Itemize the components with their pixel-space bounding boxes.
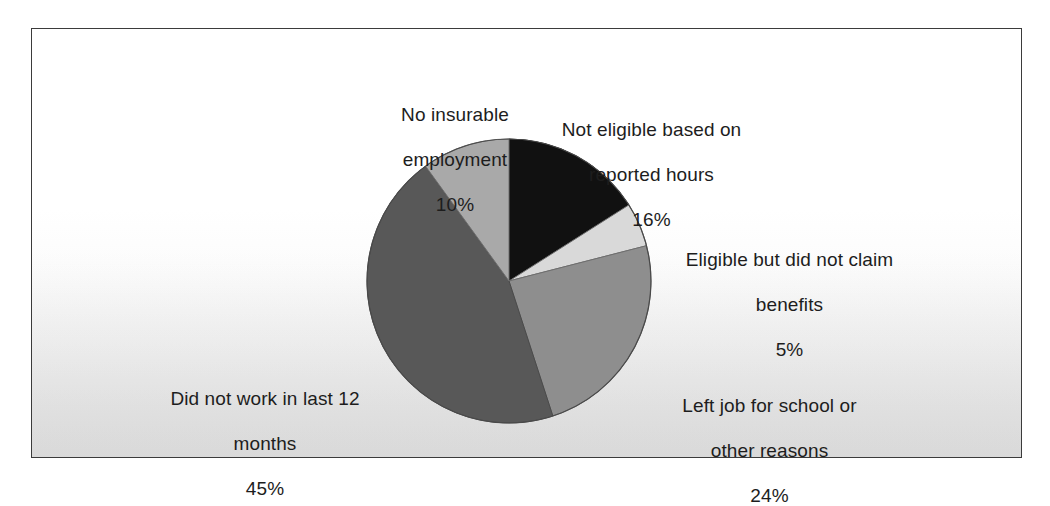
pie-label-line-1: No insurable xyxy=(401,104,509,125)
pie-label-line-2: other reasons xyxy=(711,440,828,461)
pie-label-left-job-for-school-or-other-reasons: Left job for school or other reasons 24% xyxy=(662,373,877,506)
pie-label-percent: 5% xyxy=(672,339,907,361)
pie-label-line-2: months xyxy=(234,433,297,454)
pie-label-did-not-work-in-last-12-months: Did not work in last 12 months 45% xyxy=(150,366,380,506)
pie-label-line-1: Eligible but did not claim xyxy=(686,249,894,270)
pie-label-eligible-but-did-not-claim-benefits: Eligible but did not claim benefits 5% xyxy=(672,227,907,384)
pie-label-line-1: Left job for school or xyxy=(682,395,856,416)
pie-label-line-1: Not eligible based on xyxy=(562,119,742,140)
pie-label-no-insurable-employment: No insurable employment 10% xyxy=(370,82,540,239)
pie-label-line-2: employment xyxy=(403,149,508,170)
pie-label-line-2: reported hours xyxy=(589,164,714,185)
pie-label-line-2: benefits xyxy=(756,294,823,315)
pie-label-line-1: Did not work in last 12 xyxy=(170,388,359,409)
chart-frame: No insurable employment 10% Not eligible… xyxy=(31,28,1022,458)
pie-label-percent: 45% xyxy=(150,478,380,500)
pie-label-percent: 24% xyxy=(662,485,877,506)
pie-label-percent: 10% xyxy=(370,194,540,216)
